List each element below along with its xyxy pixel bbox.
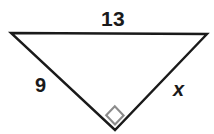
side-label-hypotenuse: 13 bbox=[101, 8, 125, 29]
side-label-leg-b: x bbox=[173, 79, 184, 99]
triangle-figure: 13 9 x bbox=[0, 0, 214, 134]
side-label-leg-a: 9 bbox=[35, 75, 46, 95]
